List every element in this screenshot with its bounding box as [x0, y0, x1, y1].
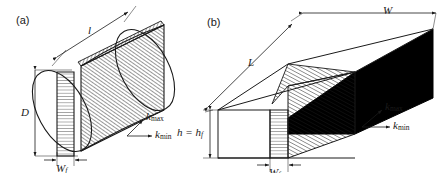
kmin-label-a: kmin — [155, 128, 172, 141]
kmin-b-sub: min — [398, 123, 410, 132]
fibre-slab-face-a — [57, 72, 74, 156]
dim-label-Wf-b: Wf — [269, 166, 280, 173]
dim-L-ext-near — [205, 110, 213, 112]
kmax-a-sub: max — [151, 114, 164, 123]
panel-b-prism — [203, 13, 436, 172]
Wf-b-sub: f — [278, 170, 280, 173]
dim-label-W: W — [383, 4, 392, 16]
kmin-a-sub: min — [160, 132, 172, 141]
dim-label-Wf-a: Wf — [56, 162, 67, 173]
h-symbol: h = h — [177, 126, 201, 138]
prism-near-left-face — [218, 110, 270, 158]
dim-label-h: h = hf — [177, 126, 203, 139]
dim-l-ext-near — [52, 50, 66, 66]
kmax-label-a: kmax — [146, 110, 164, 123]
dim-l-ext-far — [124, 6, 136, 22]
Wf-b-symbol: W — [269, 166, 278, 173]
Wf-a-symbol: W — [56, 162, 65, 173]
kmax-label-b: kmax — [385, 100, 403, 113]
prism-core-hatched-face — [288, 72, 355, 158]
dim-label-D: D — [21, 106, 29, 118]
Wf-a-sub: f — [65, 166, 67, 173]
panel-b-label: (b) — [207, 16, 220, 28]
dim-label-l: l — [88, 24, 91, 36]
h-sub: f — [201, 130, 203, 139]
fibre-slab-face-b — [270, 110, 288, 158]
kmax-b-sub: max — [390, 104, 403, 113]
dim-label-L: L — [248, 56, 254, 68]
panel-a-label: (a) — [16, 14, 29, 26]
dim-W-ext-right — [433, 13, 436, 29]
kmin-label-b: kmin — [393, 119, 410, 132]
dim-W-ext-left — [291, 13, 303, 21]
panel-a-cylinder — [20, 6, 187, 166]
